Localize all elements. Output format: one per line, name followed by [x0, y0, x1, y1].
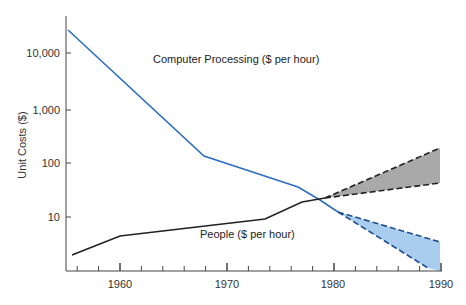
- x-tick-1960: 1960: [108, 278, 132, 290]
- y-tick-100: 100: [42, 157, 60, 169]
- y-tick-10000: 10,000: [26, 47, 60, 59]
- cost-trend-chart: 10,000 1,000 100 10 1960 1970 1980 1990 …: [0, 0, 466, 305]
- computer-projection-fan: [338, 212, 440, 271]
- y-tick-1000: 1,000: [32, 104, 60, 116]
- x-tick-1980: 1980: [321, 278, 345, 290]
- y-ticks: [66, 53, 71, 217]
- people-series-label: People ($ per hour): [200, 228, 295, 240]
- x-tick-1970: 1970: [215, 278, 239, 290]
- computer-series-label: Computer Processing ($ per hour): [153, 53, 319, 65]
- x-ticks: [77, 263, 441, 271]
- people-line: [72, 198, 325, 255]
- y-axis-label: Unit Costs ($): [16, 111, 28, 178]
- x-tick-1990: 1990: [429, 278, 453, 290]
- y-tick-10: 10: [48, 211, 60, 223]
